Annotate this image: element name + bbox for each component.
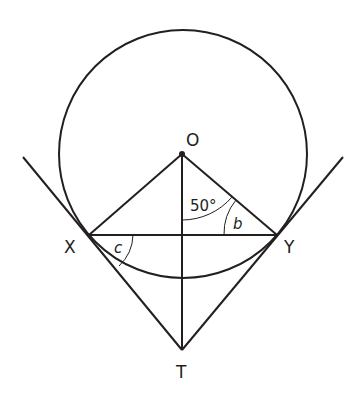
tangent-line-right [182, 157, 343, 350]
geometry-diagram: O X Y T 50° b c [0, 0, 358, 398]
point-label-o: O [186, 130, 199, 150]
point-label-t: T [175, 362, 187, 382]
point-label-y: Y [283, 237, 295, 257]
angle-label-c: c [114, 239, 123, 257]
angle-label-b: b [233, 215, 243, 233]
center-point-o [179, 151, 185, 157]
angle-label-50: 50° [190, 197, 217, 215]
tangent-line-left [23, 157, 182, 350]
segment-oy [182, 154, 277, 235]
point-label-x: X [64, 237, 76, 257]
segment-ox [89, 154, 182, 235]
